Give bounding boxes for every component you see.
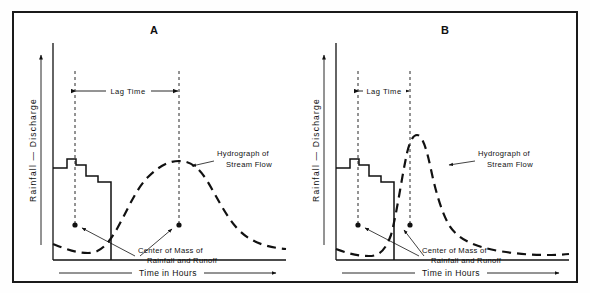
panel-a-rainfall-centroid-dot <box>72 222 77 227</box>
panel-a-plot: A Rainfall — Discharge Time in Hours <box>14 13 297 281</box>
panel-b-runoff-centroid-dot <box>407 222 412 227</box>
panel-a-x-axis-label: Time in Hours <box>139 268 197 278</box>
panel-b-label: B <box>441 24 449 36</box>
panel-b-centroid-leader-right <box>404 230 424 256</box>
panel-b-hydrograph-line2: Stream Flow <box>487 160 533 169</box>
panel-a: A Rainfall — Discharge Time in Hours <box>14 13 297 281</box>
panel-b-hydrograph-line1: Hydrograph of <box>478 149 531 158</box>
panel-b: B Rainfall — Discharge Time in Hours Lag… <box>297 13 580 281</box>
panel-a-center-of-mass-line2: Rainfall and Runoff <box>147 256 218 265</box>
panel-a-lag-time-label: Lag Time <box>110 87 145 96</box>
panel-b-center-of-mass-line2: Rainfall and Runoff <box>431 256 502 265</box>
panel-a-rainfall-hyetograph <box>53 159 111 260</box>
panel-a-label: A <box>150 24 158 36</box>
panel-a-center-of-mass-line1: Center of Mass of <box>138 246 204 255</box>
panel-a-centroid-leader-left <box>82 228 135 256</box>
figure-border: A Rainfall — Discharge Time in Hours <box>12 11 578 283</box>
panel-b-center-of-mass-line1: Center of Mass of <box>422 246 488 255</box>
panel-b-plot: B Rainfall — Discharge Time in Hours Lag… <box>297 13 580 281</box>
panel-b-x-axis-label: Time in Hours <box>422 268 480 278</box>
panel-b-lag-time-label: Lag Time <box>366 87 401 96</box>
panel-b-rainfall-centroid-dot <box>355 222 360 227</box>
panel-b-rainfall-hyetograph <box>336 159 394 260</box>
panel-b-hydrograph-leader <box>449 161 475 165</box>
panel-a-hydrograph-line2: Stream Flow <box>226 160 272 169</box>
panel-a-hydrograph-leader <box>192 161 214 166</box>
panel-a-hydrograph-curve <box>53 161 286 253</box>
panel-b-y-axis-label: Rainfall — Discharge <box>311 98 321 202</box>
panel-b-centroid-leader-left <box>365 228 419 256</box>
panel-a-runoff-centroid-dot <box>176 222 181 227</box>
figure-canvas: A Rainfall — Discharge Time in Hours <box>0 0 590 293</box>
panel-a-hydrograph-line1: Hydrograph of <box>217 149 270 158</box>
panel-b-hydrograph-curve <box>336 135 569 256</box>
panel-a-y-axis-label: Rainfall — Discharge <box>28 98 38 202</box>
